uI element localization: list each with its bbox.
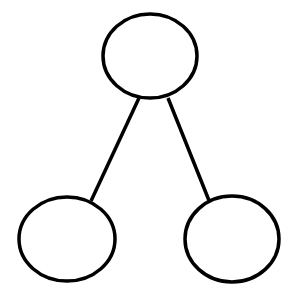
node-left-child xyxy=(19,197,115,281)
tree-diagram xyxy=(0,0,294,302)
node-root xyxy=(103,14,197,98)
node-right-child xyxy=(185,196,279,282)
